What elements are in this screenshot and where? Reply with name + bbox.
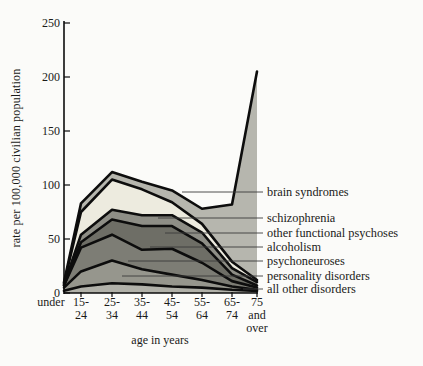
x-tick-label: 55- <box>194 295 210 309</box>
x-tick-label: 45- <box>164 295 180 309</box>
x-tick-label: 35- <box>134 295 150 309</box>
stacked-area-chart-figure: 050100150200250under15-2425-3435-4445-54… <box>0 0 423 366</box>
x-tick-label: 64 <box>196 308 208 322</box>
x-tick-label: 44 <box>136 308 148 322</box>
x-tick-label: 24 <box>75 308 87 322</box>
legend-label-all-other-disorders: all other disorders <box>267 282 356 296</box>
x-tick-label: 15- <box>73 295 89 309</box>
legend-label-brain-syndromes: brain syndromes <box>267 185 349 199</box>
legend-label-personality-disorders: personality disorders <box>267 269 370 283</box>
y-tick-label: 200 <box>42 70 60 84</box>
legend-label-alcoholism: alcoholism <box>267 240 321 254</box>
chart-canvas: 050100150200250under15-2425-3435-4445-54… <box>0 0 423 366</box>
x-tick-label: 65- <box>224 295 240 309</box>
x-tick-label: 25- <box>104 295 120 309</box>
y-tick-label: 100 <box>42 178 60 192</box>
x-tick-label: 74 <box>226 308 238 322</box>
x-axis-label: age in years <box>70 333 250 348</box>
legend-label-psychoneuroses: psychoneuroses <box>267 254 345 268</box>
x-tick-label: 75 <box>251 295 263 309</box>
x-tick-label: 34 <box>106 308 118 322</box>
y-tick-label: 250 <box>42 16 60 30</box>
y-tick-label: 50 <box>48 232 60 246</box>
x-tick-label: under <box>37 295 64 309</box>
y-tick-label: 150 <box>42 124 60 138</box>
x-tick-label: 54 <box>166 308 178 322</box>
y-axis-label: rate per 100,000 civilian population <box>9 18 25 298</box>
x-tick-label: and <box>248 308 265 322</box>
legend-label-schizophrenia: schizophrenia <box>267 211 336 225</box>
legend-label-other-functional-psychoses: other functional psychoses <box>267 226 398 240</box>
